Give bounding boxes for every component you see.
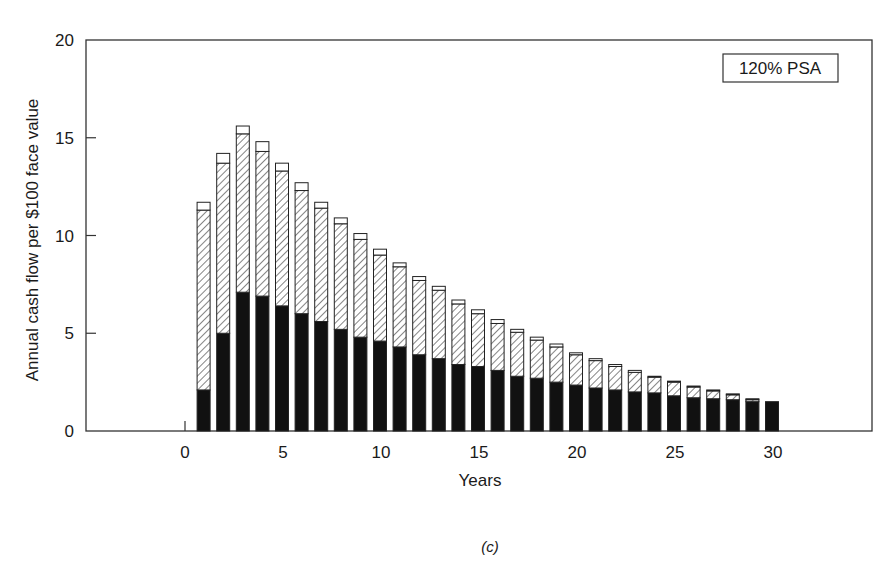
bar-segment-solid <box>687 398 700 431</box>
bar-segment-open <box>256 142 269 152</box>
bar-segment-solid <box>432 359 445 431</box>
bar-segment-open <box>491 320 504 324</box>
bar-segment-hatched <box>354 239 367 337</box>
bar-segment-solid <box>648 393 661 431</box>
bar-segment-solid <box>413 355 426 431</box>
cash-flow-chart: 05101520 051015202530 120% PSA Years Ann… <box>0 0 887 563</box>
bar-year-9 <box>354 234 367 431</box>
y-axis-title: Annual cash flow per $100 face value <box>23 99 42 382</box>
bar-segment-hatched <box>276 171 289 306</box>
bar-segment-hatched <box>648 377 661 393</box>
bar-segment-hatched <box>374 255 387 341</box>
bar-year-11 <box>393 263 406 431</box>
bar-segment-open <box>668 381 681 382</box>
bar-series <box>197 126 778 431</box>
bar-segment-open <box>315 202 328 208</box>
bar-year-3 <box>236 126 249 431</box>
bar-segment-solid <box>511 376 524 431</box>
bar-segment-solid <box>354 337 367 431</box>
bar-year-6 <box>295 183 308 431</box>
legend: 120% PSA <box>723 54 838 82</box>
bar-segment-hatched <box>707 391 720 399</box>
bar-segment-open <box>648 376 661 377</box>
y-tick-label: 0 <box>65 422 74 441</box>
bar-segment-solid <box>726 400 739 431</box>
bar-segment-open <box>295 183 308 191</box>
x-tick-label: 30 <box>764 443 783 462</box>
y-tick-label: 5 <box>65 324 74 343</box>
bar-segment-hatched <box>197 210 210 390</box>
y-tick-label: 10 <box>55 227 74 246</box>
bar-year-25 <box>668 381 681 431</box>
bar-segment-solid <box>589 388 602 431</box>
bar-year-30 <box>766 402 779 431</box>
bar-segment-solid <box>315 322 328 431</box>
bar-segment-open <box>570 353 583 355</box>
bar-segment-open <box>726 394 739 395</box>
bar-segment-solid <box>766 402 779 431</box>
bar-segment-hatched <box>511 332 524 376</box>
bar-year-17 <box>511 329 524 431</box>
bar-segment-solid <box>550 382 563 431</box>
y-axis-ticks: 05101520 <box>55 31 96 441</box>
bar-segment-hatched <box>236 134 249 292</box>
bar-year-1 <box>197 202 210 431</box>
bar-segment-open <box>217 153 230 163</box>
bar-segment-solid <box>276 306 289 431</box>
bar-segment-solid <box>393 347 406 431</box>
bar-segment-open <box>746 399 759 400</box>
y-tick-label: 15 <box>55 129 74 148</box>
bar-year-7 <box>315 202 328 431</box>
bar-segment-solid <box>491 370 504 431</box>
x-tick-label: 5 <box>278 443 287 462</box>
bar-segment-hatched <box>687 387 700 398</box>
y-tick-label: 20 <box>55 31 74 50</box>
bar-segment-hatched <box>570 355 583 385</box>
bar-segment-hatched <box>668 382 681 396</box>
bar-segment-hatched <box>726 395 739 400</box>
bar-segment-hatched <box>217 163 230 333</box>
bar-year-5 <box>276 163 289 431</box>
bar-segment-solid <box>628 392 641 431</box>
bar-year-24 <box>648 376 661 431</box>
bar-year-20 <box>570 353 583 431</box>
bar-segment-solid <box>707 399 720 431</box>
bar-year-2 <box>217 153 230 431</box>
bar-segment-open <box>374 249 387 255</box>
bar-segment-open <box>413 277 426 281</box>
bar-segment-hatched <box>256 151 269 296</box>
bar-segment-solid <box>374 341 387 431</box>
bar-segment-open <box>609 365 622 367</box>
bar-segment-solid <box>256 296 269 431</box>
bar-segment-solid <box>217 333 230 431</box>
bar-year-8 <box>334 218 347 431</box>
bar-segment-solid <box>295 314 308 431</box>
bar-segment-open <box>354 234 367 240</box>
bar-year-21 <box>589 359 602 431</box>
bar-segment-open <box>589 359 602 361</box>
bar-segment-open <box>511 329 524 332</box>
bar-segment-solid <box>668 396 681 431</box>
bar-year-16 <box>491 320 504 431</box>
bar-year-22 <box>609 365 622 431</box>
bar-segment-hatched <box>530 340 543 378</box>
x-axis-title: Years <box>459 471 502 490</box>
x-tick-label: 15 <box>470 443 489 462</box>
bar-segment-hatched <box>432 290 445 358</box>
bar-segment-open <box>687 386 700 387</box>
bar-segment-open <box>236 126 249 134</box>
bar-segment-open <box>628 370 641 372</box>
bar-year-15 <box>472 310 485 431</box>
bar-segment-hatched <box>393 267 406 347</box>
x-tick-label: 0 <box>180 443 189 462</box>
bar-segment-hatched <box>628 372 641 392</box>
bar-segment-open <box>276 163 289 171</box>
bar-segment-solid <box>197 390 210 431</box>
bar-year-4 <box>256 142 269 431</box>
bar-segment-solid <box>530 378 543 431</box>
bar-segment-solid <box>609 390 622 431</box>
bar-segment-open <box>432 286 445 290</box>
bar-segment-hatched <box>589 361 602 388</box>
bar-segment-solid <box>452 365 465 431</box>
bar-segment-hatched <box>295 191 308 314</box>
